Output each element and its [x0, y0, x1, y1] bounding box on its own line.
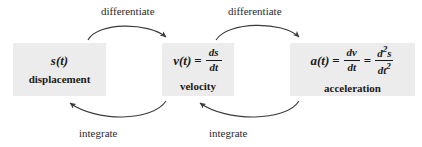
velocity-fraction-numerator: ds: [207, 47, 221, 60]
velocity-equals-sign: =: [194, 54, 201, 67]
dt2-base: dt: [378, 64, 387, 76]
arrow-label-differentiate-2: differentiate: [228, 5, 282, 17]
box-acceleration: a(t) = dv dt = d2s dt2 acceleration: [290, 43, 415, 96]
acceleration-fraction-dv-dt: dv dt: [344, 47, 360, 73]
acceleration-label: acceleration: [324, 83, 381, 94]
acceleration-fraction2-denominator: dt2: [376, 61, 393, 76]
velocity-fraction-ds-dt: ds dt: [206, 47, 222, 73]
displacement-formula: s(t): [51, 54, 68, 67]
velocity-formula: v(t) = ds dt: [173, 47, 222, 73]
arrow-label-differentiate-1: differentiate: [101, 5, 155, 17]
box-displacement: s(t) displacement: [13, 43, 106, 96]
arrow-integrate-1: [70, 101, 166, 117]
acceleration-fraction2-numerator: d2s: [375, 45, 393, 60]
box-velocity: v(t) = ds dt velocity: [162, 43, 234, 96]
displacement-label: displacement: [29, 74, 91, 85]
velocity-fraction-denominator: dt: [207, 61, 220, 74]
velocity-label: velocity: [180, 81, 216, 92]
acceleration-fraction-d2s-dt2: d2s dt2: [375, 45, 393, 76]
arrow-differentiate-1: [88, 26, 166, 40]
dt2-exponent: 2: [386, 61, 391, 71]
diagram-canvas: s(t) displacement v(t) = ds dt velocity …: [0, 0, 422, 147]
acceleration-equals-sign-2: =: [364, 54, 371, 67]
velocity-symbol: v(t): [173, 54, 191, 67]
acceleration-fraction1-denominator: dt: [345, 61, 358, 74]
acceleration-equals-sign-1: =: [332, 54, 339, 67]
d2s-variable: s: [387, 46, 391, 58]
arrow-integrate-2: [200, 101, 299, 117]
acceleration-fraction1-numerator: dv: [345, 47, 359, 60]
arrow-label-integrate-2: integrate: [209, 127, 247, 139]
acceleration-symbol: a(t): [311, 54, 330, 67]
arrow-label-integrate-1: integrate: [79, 127, 117, 139]
acceleration-formula: a(t) = dv dt = d2s dt2: [311, 45, 395, 76]
arrow-differentiate-2: [216, 25, 299, 40]
displacement-symbol: s(t): [51, 54, 68, 67]
